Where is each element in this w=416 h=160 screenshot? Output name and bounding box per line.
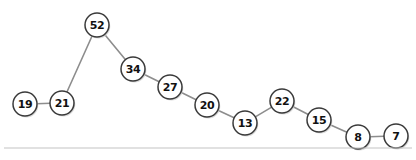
- data-point-node[interactable]: 7: [384, 124, 409, 150]
- node-value-label: 27: [163, 81, 178, 94]
- chart-canvas: 19215234272013221587: [0, 0, 416, 160]
- edge-13-to-22: [255, 107, 272, 117]
- node-value-label: 20: [200, 99, 215, 112]
- edge-20-to-13: [217, 110, 234, 118]
- data-point-node[interactable]: 19: [13, 92, 38, 118]
- data-point-node[interactable]: 22: [270, 89, 295, 115]
- node-value-label: 19: [18, 98, 33, 111]
- data-point-node[interactable]: 21: [50, 91, 75, 117]
- data-point-node[interactable]: 34: [121, 57, 146, 83]
- data-point-node[interactable]: 13: [233, 111, 258, 137]
- data-point-node[interactable]: 27: [158, 75, 183, 101]
- data-point-node[interactable]: 15: [307, 108, 332, 134]
- edge-34-to-27: [143, 74, 159, 82]
- node-group: 19215234272013221587: [13, 13, 409, 151]
- edge-22-to-15: [292, 106, 309, 115]
- edge-27-to-20: [180, 92, 196, 100]
- line-chart: 19215234272013221587: [0, 0, 416, 160]
- edge-group: [37, 34, 385, 137]
- node-value-label: 13: [238, 117, 253, 130]
- node-value-label: 21: [55, 97, 70, 110]
- node-value-label: 8: [354, 131, 361, 144]
- node-value-label: 22: [275, 95, 290, 108]
- node-value-label: 7: [392, 130, 399, 143]
- edge-15-to-8: [330, 125, 348, 133]
- data-point-node[interactable]: 8: [346, 125, 371, 151]
- node-value-label: 34: [126, 63, 141, 76]
- data-point-node[interactable]: 52: [85, 13, 110, 39]
- edge-21-to-52: [67, 35, 93, 92]
- edge-52-to-34: [104, 34, 125, 60]
- node-value-label: 15: [312, 114, 327, 127]
- data-point-node[interactable]: 20: [195, 93, 220, 119]
- node-value-label: 52: [90, 19, 105, 32]
